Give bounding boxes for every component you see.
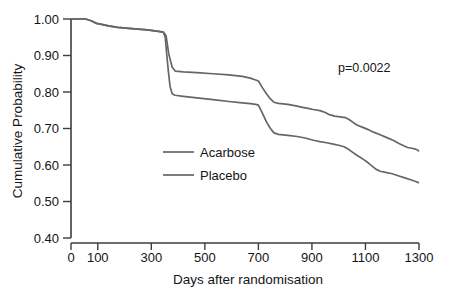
x-tick-label-300: 300 (140, 250, 162, 265)
x-tick-label-900: 900 (301, 250, 323, 265)
legend-label-placebo: Placebo (200, 168, 247, 183)
x-tick-label-0: 0 (67, 250, 74, 265)
y-tick-label-0.70: 0.70 (34, 121, 59, 136)
x-tick-label-700: 700 (248, 250, 270, 265)
x-tick-label-100: 100 (87, 250, 109, 265)
x-tick-label-1300: 1300 (405, 250, 434, 265)
y-tick-label-0.90: 0.90 (34, 48, 59, 63)
x-tick-label-500: 500 (194, 250, 216, 265)
x-tick-label-1100: 1100 (351, 250, 379, 265)
y-tick-label-1.00: 1.00 (34, 12, 59, 27)
y-tick-label-0.80: 0.80 (34, 85, 59, 100)
x-axis-title: Days after randomisation (173, 272, 323, 287)
y-tick-label-0.50: 0.50 (34, 194, 59, 209)
y-tick-label-0.40: 0.40 (34, 231, 59, 246)
kaplan-meier-figure: 0.400.500.600.700.800.901.00 01003005007… (0, 0, 453, 296)
p-value-annotation: p=0.0022 (338, 61, 391, 75)
y-tick-label-0.60: 0.60 (34, 158, 59, 173)
legend-label-acarbose: Acarbose (200, 145, 255, 160)
y-axis-title: Cumulative Probability (10, 64, 25, 199)
survival-curve-chart: 0.400.500.600.700.800.901.00 01003005007… (0, 0, 453, 296)
